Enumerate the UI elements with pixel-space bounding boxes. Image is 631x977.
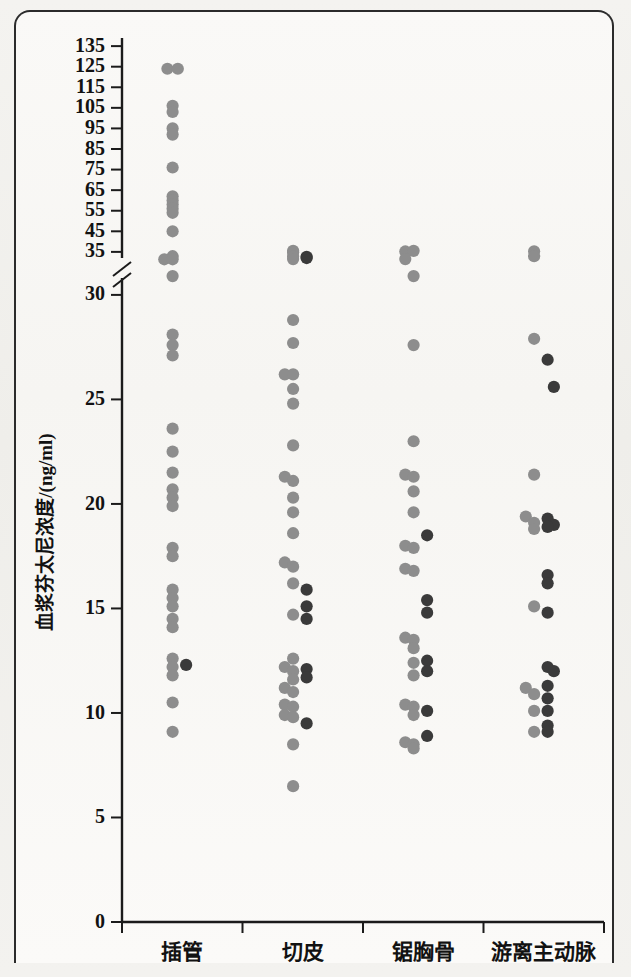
data-point [408, 642, 420, 654]
data-point [301, 600, 313, 612]
data-point [167, 161, 179, 173]
data-point [287, 492, 299, 504]
data-point [167, 621, 179, 633]
data-point [301, 671, 313, 683]
data-point [167, 600, 179, 612]
data-point [287, 780, 299, 792]
y-axis: 05101520253035455565758595105115125135 [75, 34, 131, 932]
data-point [421, 730, 433, 742]
data-point [167, 446, 179, 458]
data-point [167, 129, 179, 141]
data-point [167, 253, 179, 265]
data-point [528, 469, 540, 481]
data-point [528, 333, 540, 345]
data-point [301, 252, 313, 264]
y-tick-label: 5 [95, 805, 105, 827]
data-point [167, 550, 179, 562]
data-point [408, 471, 420, 483]
data-point [167, 106, 179, 118]
data-point [167, 349, 179, 361]
data-point [542, 705, 554, 717]
x-category-label: 游离主动脉 [491, 940, 597, 964]
y-tick-label: 25 [85, 387, 105, 409]
y-tick-label: 125 [75, 54, 105, 76]
data-points-layer [158, 63, 560, 793]
data-point [167, 329, 179, 341]
data-point [172, 63, 184, 75]
data-point [548, 665, 560, 677]
chart-canvas: 05101520253035455565758595105115125135 插… [16, 12, 616, 965]
data-point [301, 613, 313, 625]
data-point [408, 485, 420, 497]
data-point [542, 354, 554, 366]
data-point [287, 577, 299, 589]
data-point [408, 506, 420, 518]
data-point [167, 466, 179, 478]
data-point [287, 506, 299, 518]
data-point [287, 398, 299, 410]
data-point [542, 521, 554, 533]
data-point [408, 339, 420, 351]
data-point [287, 314, 299, 326]
data-point [421, 607, 433, 619]
data-point [408, 709, 420, 721]
data-point [408, 542, 420, 554]
data-point [287, 711, 299, 723]
data-point [528, 726, 540, 738]
data-point [542, 726, 554, 738]
y-tick-label: 85 [85, 137, 105, 159]
data-point [542, 577, 554, 589]
data-point [528, 600, 540, 612]
data-point [167, 669, 179, 681]
y-tick-label: 105 [75, 95, 105, 117]
y-tick-label: 55 [85, 198, 105, 220]
data-point [287, 527, 299, 539]
figure-frame: 05101520253035455565758595105115125135 插… [14, 10, 614, 963]
data-point [421, 655, 433, 667]
data-point [287, 368, 299, 380]
data-point [287, 686, 299, 698]
data-point [287, 738, 299, 750]
data-point [542, 607, 554, 619]
x-category-label: 锯胸骨 [392, 940, 455, 964]
data-point [542, 692, 554, 704]
data-point [180, 659, 192, 671]
data-point [167, 726, 179, 738]
data-point [167, 339, 179, 351]
y-tick-label: 35 [85, 239, 105, 261]
data-point [167, 225, 179, 237]
y-tick-label: 75 [85, 157, 105, 179]
data-point [167, 500, 179, 512]
data-point [161, 63, 173, 75]
data-point [167, 207, 179, 219]
data-point [287, 439, 299, 451]
data-point [167, 270, 179, 282]
data-point [421, 529, 433, 541]
data-point [301, 584, 313, 596]
data-point [408, 657, 420, 669]
data-point [287, 609, 299, 621]
data-point [408, 270, 420, 282]
data-point [548, 381, 560, 393]
data-point [301, 717, 313, 729]
y-tick-label: 30 [85, 282, 105, 304]
x-axis: 插管切皮锯胸骨游离主动脉 [122, 922, 604, 964]
axis-labels-layer: 血浆芬太尼浓度/(ng/ml) [34, 433, 57, 630]
data-point [287, 337, 299, 349]
y-tick-label: 45 [85, 219, 105, 241]
y-tick-label: 20 [85, 492, 105, 514]
data-point [421, 705, 433, 717]
data-point [408, 565, 420, 577]
data-point [287, 253, 299, 265]
data-point [408, 742, 420, 754]
x-category-label: 插管 [161, 940, 203, 964]
data-point [421, 594, 433, 606]
y-tick-label: 115 [76, 75, 105, 97]
data-point [408, 435, 420, 447]
y-tick-label: 0 [95, 910, 105, 932]
data-point [167, 696, 179, 708]
data-point [287, 475, 299, 487]
data-point [167, 423, 179, 435]
data-point [399, 253, 411, 265]
y-tick-label: 65 [85, 178, 105, 200]
